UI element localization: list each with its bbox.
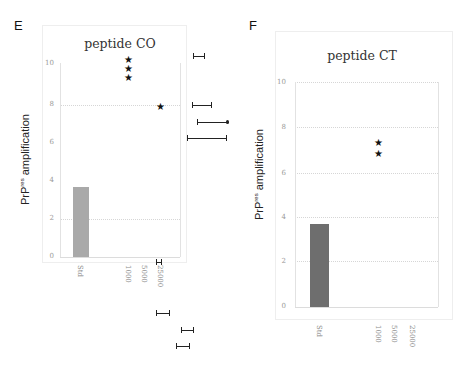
bar-std-e xyxy=(73,187,89,257)
y-axis-label-e: PrPres amplification xyxy=(19,114,31,205)
significance-star-icon: ★ xyxy=(124,73,133,83)
chart-frame-e xyxy=(42,25,187,263)
chart-title-e: peptide CO xyxy=(84,36,156,51)
error-bar-icon xyxy=(197,122,229,123)
y-axis-line-e xyxy=(60,63,61,257)
x-axis-line-e xyxy=(60,257,180,258)
bar-std-f xyxy=(310,224,329,307)
right-edge-e xyxy=(180,63,181,257)
x-label: 1000 xyxy=(124,265,132,283)
chart-frame-f xyxy=(275,31,453,320)
x-label: Std xyxy=(315,325,323,337)
gridline xyxy=(295,217,438,218)
y-tick: 2 xyxy=(40,214,54,222)
error-bar-icon xyxy=(187,138,227,139)
panel-letter-f: F xyxy=(249,18,257,33)
x-label: 25000 xyxy=(408,325,416,347)
error-bar-icon xyxy=(193,56,205,57)
x-axis-line-f xyxy=(295,307,438,308)
gridline xyxy=(295,82,438,83)
y-tick: 8 xyxy=(272,123,286,131)
error-bar-icon xyxy=(181,330,194,331)
y-axis-label-f: PrPres amplification xyxy=(253,129,265,220)
y-tick: 0 xyxy=(272,302,286,310)
x-label: 1000 xyxy=(374,325,382,343)
error-bar-icon xyxy=(156,313,170,314)
y-tick: 10 xyxy=(40,59,54,67)
panel-letter-e: E xyxy=(14,18,23,33)
error-bar-icon xyxy=(192,105,212,106)
y-axis-line-f xyxy=(295,82,296,307)
significance-star-icon: ★ xyxy=(156,102,165,112)
gridline xyxy=(295,127,438,128)
right-edge-f xyxy=(438,82,439,307)
chart-title-f: peptide CT xyxy=(327,48,397,63)
x-label: 5000 xyxy=(390,325,398,343)
y-tick: 6 xyxy=(272,169,286,177)
error-bar-icon xyxy=(176,346,190,347)
y-tick: 4 xyxy=(272,213,286,221)
x-label: 25000 xyxy=(156,265,164,287)
y-tick: 0 xyxy=(40,252,54,260)
y-tick: 4 xyxy=(40,176,54,184)
y-tick: 6 xyxy=(40,138,54,146)
y-tick: 8 xyxy=(40,100,54,108)
y-tick: 2 xyxy=(272,257,286,265)
x-label: Std xyxy=(76,265,84,277)
x-label: 5000 xyxy=(140,265,148,283)
error-bar-icon xyxy=(156,262,162,263)
significance-star-icon: ★ xyxy=(374,149,383,159)
gridline xyxy=(295,173,438,174)
significance-star-icon: ★ xyxy=(374,138,383,148)
y-tick: 10 xyxy=(272,78,286,86)
